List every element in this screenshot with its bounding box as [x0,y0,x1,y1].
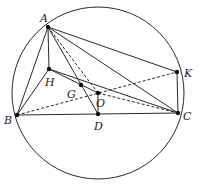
label-c: C [183,110,192,123]
segment-ab [17,27,48,115]
point-b [15,113,19,117]
segment-ah [48,27,49,69]
point-d [96,112,100,116]
label-a: A [39,12,48,25]
segment-ak [48,27,177,72]
point-a [46,25,50,29]
geometry-diagram: AHGODBCK [0,0,198,188]
point-k [175,70,179,74]
label-d: D [93,120,103,133]
label-b: B [3,114,12,127]
label-h: H [44,76,55,89]
label-g: G [67,88,76,101]
label-o: O [96,97,105,110]
point-h [47,67,51,71]
point-o [96,91,100,95]
point-c [176,111,180,115]
segment-kc [177,72,178,113]
segment-oc [98,93,178,113]
label-k: K [183,67,193,80]
point-g [79,83,83,87]
